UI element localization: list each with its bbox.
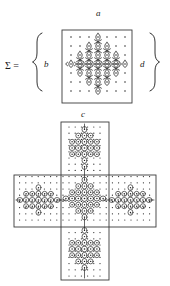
label-a: a [96,9,101,18]
sigma-equals-label: Σ = [5,61,19,71]
panel-c-group [14,122,156,280]
label-d: d [140,60,145,69]
kolam-figure [0,0,170,286]
brace-left [33,33,43,91]
label-c: c [81,110,85,119]
panel-c-kolam [16,124,154,278]
panel-a-group [62,30,132,103]
label-b: b [44,60,49,69]
brace-right [150,33,160,91]
panel-a-kolam [66,33,128,94]
